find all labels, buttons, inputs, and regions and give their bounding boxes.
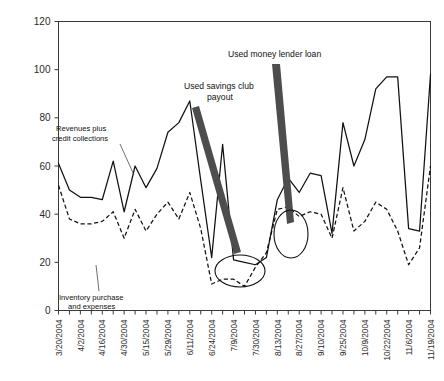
x-tick-label: 10/22/2004	[383, 319, 392, 360]
x-tick-label: 11/6/2004	[405, 319, 414, 355]
x-tick-label: 8/27/2004	[295, 319, 304, 356]
y-tick-label: 120	[34, 16, 51, 27]
x-tick-label: 9/25/2004	[339, 319, 348, 356]
y-tick-label: 40	[39, 209, 51, 220]
inventory-label-line1: Inventory purchase	[59, 293, 124, 302]
y-tick-label: 60	[39, 161, 51, 172]
money-lender-text: Used money lender loan	[228, 49, 321, 59]
x-tick-label: 3/20/2004	[55, 319, 64, 356]
x-tick-label: 6/11/2004	[186, 319, 195, 355]
x-tick-label: 4/30/2004	[120, 319, 129, 356]
savings-club-text-line1: Used savings club	[184, 81, 254, 91]
x-tick-label: 11/19/2004	[427, 319, 436, 360]
y-tick-label: 80	[39, 112, 51, 123]
inventory-label-line2: and expenses	[68, 302, 115, 311]
chart-container: 020406080100120 3/20/20044/2/20044/16/20…	[0, 0, 444, 381]
x-tick-label: 5/29/2004	[164, 319, 173, 356]
y-tick-label: 20	[39, 257, 51, 268]
x-tick-label: 5/15/2004	[142, 319, 151, 356]
x-tick-label: 7/9/2004	[230, 319, 239, 351]
x-tick-label: 9/10/2004	[317, 319, 326, 356]
y-tick-label: 100	[34, 64, 51, 75]
x-tick-label: 4/16/2004	[98, 319, 107, 356]
line-chart: 020406080100120 3/20/20044/2/20044/16/20…	[0, 0, 444, 381]
savings-club-text-line2: payout	[207, 92, 233, 102]
x-tick-label: 10/9/2004	[361, 319, 370, 356]
x-tick-label: 7/30/2004	[252, 319, 261, 356]
y-tick-label: 0	[45, 305, 51, 316]
x-tick-label: 6/24/2004	[208, 319, 217, 356]
revenues-label-line1: Revenues plus	[56, 124, 106, 133]
revenues-label-line2: credit collections	[52, 134, 108, 143]
x-tick-label: 8/13/2004	[274, 319, 283, 356]
x-tick-label: 4/2/2004	[77, 319, 86, 351]
